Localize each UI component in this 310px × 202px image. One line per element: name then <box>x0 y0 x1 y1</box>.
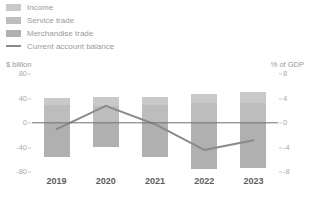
left-tick-mark-neg80 <box>28 172 31 173</box>
right-tick-8: 8 <box>283 70 287 78</box>
chart-container: Income Service trade Merchandise trade C… <box>0 0 310 202</box>
legend-swatch-merchandise-trade <box>6 30 21 37</box>
left-axis-unit-label: $ billion <box>6 60 31 69</box>
x-axis-label-2022: 2022 <box>194 176 214 186</box>
x-axis-label-2023: 2023 <box>243 176 263 186</box>
legend-line-swatch-current-account-balance <box>6 43 21 50</box>
legend-item-service-trade: Service trade <box>6 15 114 26</box>
right-axis-unit-label: % of GDP <box>271 60 304 69</box>
x-axis-label-2021: 2021 <box>145 176 165 186</box>
legend-label-service-trade: Service trade <box>27 16 74 25</box>
left-tick-neg80: -80 <box>16 168 27 176</box>
right-tick-4: 4 <box>283 95 287 103</box>
left-tick-mark-40 <box>28 98 31 99</box>
right-tick-neg8: -8 <box>283 168 290 176</box>
right-tick-mark-4 <box>279 98 282 99</box>
right-tick-mark-8 <box>279 74 282 75</box>
right-tick-mark-0 <box>279 123 282 124</box>
plot-area: 80400-40-80 840-4-8 <box>32 74 278 172</box>
legend-label-current-account-balance: Current account balance <box>27 42 114 51</box>
left-tick-mark-80 <box>28 74 31 75</box>
left-tick-mark-0 <box>28 123 31 124</box>
legend-item-income: Income <box>6 2 114 13</box>
legend-swatch-income <box>6 4 21 11</box>
left-tick-0: 0 <box>23 119 27 127</box>
legend-item-merchandise-trade: Merchandise trade <box>6 28 114 39</box>
legend-item-current-account-balance: Current account balance <box>6 41 114 52</box>
right-tick-mark-neg4 <box>279 147 282 148</box>
x-axis-label-2020: 2020 <box>96 176 116 186</box>
right-tick-neg4: -4 <box>283 144 290 152</box>
left-tick-40: 40 <box>19 95 27 103</box>
chart-legend: Income Service trade Merchandise trade C… <box>6 2 114 54</box>
right-tick-mark-neg8 <box>279 172 282 173</box>
zero-baseline <box>32 122 278 123</box>
x-axis-labels: 20192020202120222023 <box>32 176 278 190</box>
left-tick-mark-neg40 <box>28 147 31 148</box>
left-tick-80: 80 <box>19 70 27 78</box>
x-axis-label-2019: 2019 <box>47 176 67 186</box>
legend-swatch-service-trade <box>6 17 21 24</box>
left-tick-neg40: -40 <box>16 144 27 152</box>
right-tick-0: 0 <box>283 119 287 127</box>
line-current-account-balance <box>57 106 254 150</box>
legend-label-merchandise-trade: Merchandise trade <box>27 29 93 38</box>
legend-label-income: Income <box>27 3 53 12</box>
